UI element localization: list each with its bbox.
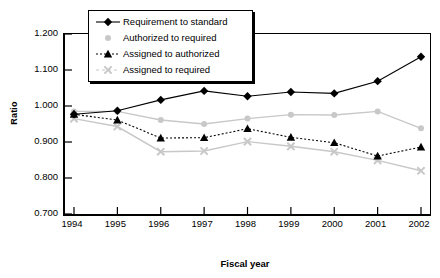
x-axis-title: Fiscal year	[60, 258, 430, 269]
legend-item[interactable]: Requirement to standard	[93, 14, 248, 30]
diamond-marker-icon	[93, 14, 123, 30]
legend-item-label: Assigned to required	[123, 62, 210, 78]
chart-figure: Ratio 0.7000.8000.9001.0001.1001.200 199…	[0, 0, 440, 278]
legend-item-label: Assigned to authorized	[123, 46, 220, 62]
legend-item-label: Requirement to standard	[123, 14, 228, 30]
y-tick-label: 0.800	[22, 172, 58, 182]
chart-legend: Requirement to standardAuthorized to req…	[88, 10, 253, 82]
y-tick-label: 0.700	[22, 208, 58, 218]
legend-item[interactable]: Assigned to required	[93, 62, 248, 78]
series-assigned-to-required	[70, 115, 424, 174]
cross-marker-icon	[93, 62, 123, 78]
circle-marker-icon	[93, 30, 123, 46]
x-tick-label: 1996	[139, 218, 179, 229]
x-tick-label: 2000	[312, 218, 352, 229]
y-tick-label: 1.100	[22, 64, 58, 74]
x-tick-label: 1995	[95, 218, 135, 229]
y-tick-label: 0.900	[22, 136, 58, 146]
x-tick-label: 2001	[356, 218, 396, 229]
y-axis-tick-labels: 0.7000.8000.9001.0001.1001.200	[14, 0, 58, 278]
legend-item[interactable]: Assigned to authorized	[93, 46, 248, 62]
x-tick-label: 2002	[399, 218, 439, 229]
triangle-marker-icon	[93, 46, 123, 62]
x-tick-label: 1994	[52, 218, 92, 229]
x-tick-label: 1997	[182, 218, 222, 229]
legend-item-label: Authorized to required	[123, 30, 216, 46]
x-tick-label: 1998	[226, 218, 266, 229]
legend-item[interactable]: Authorized to required	[93, 30, 248, 46]
x-tick-label: 1999	[269, 218, 309, 229]
y-tick-label: 1.200	[22, 28, 58, 38]
y-tick-label: 1.000	[22, 100, 58, 110]
